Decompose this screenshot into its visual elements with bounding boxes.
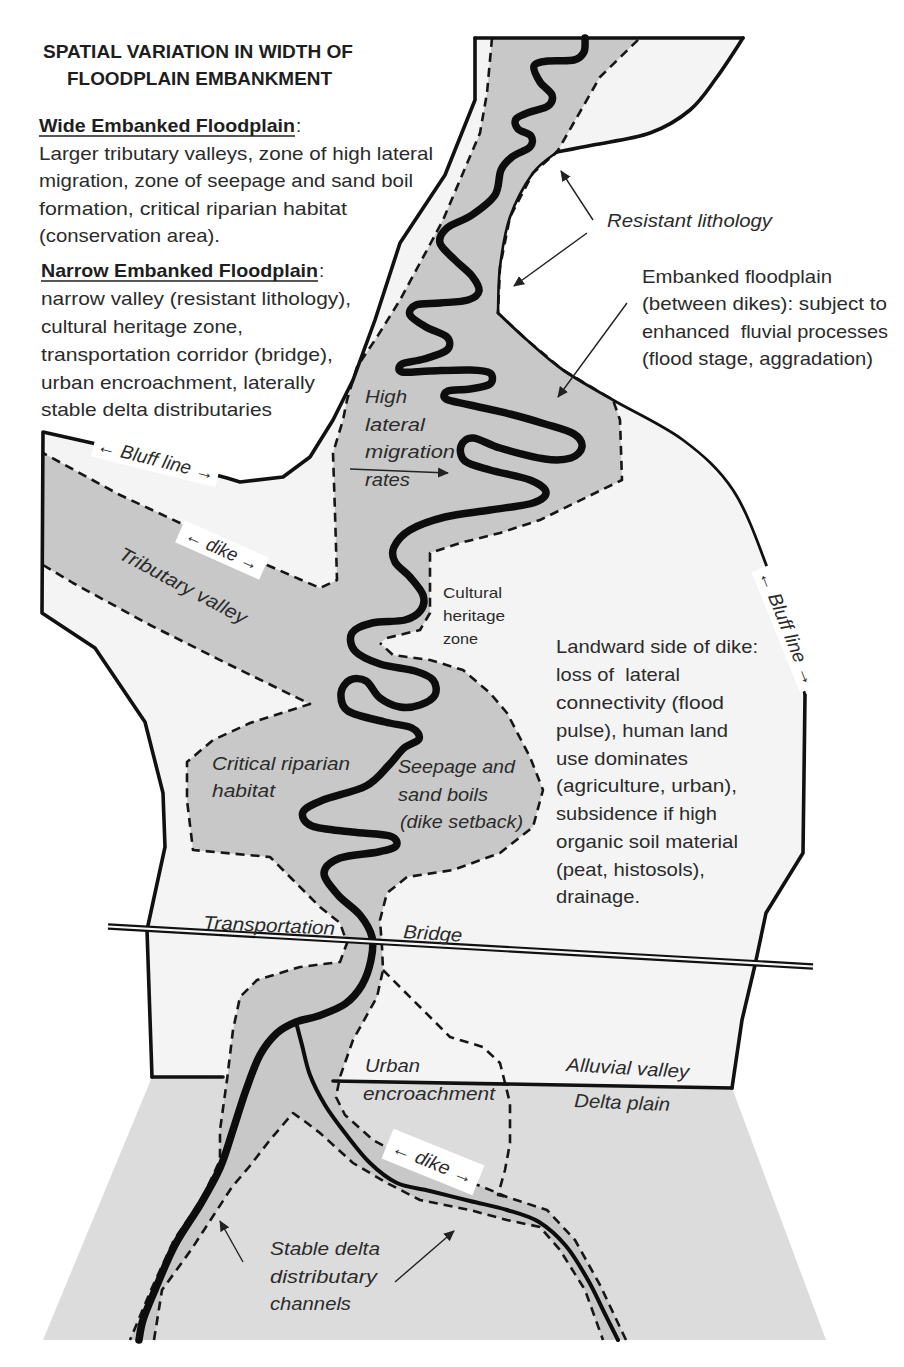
narrow-floodplain-line: cultural heritage zone, [41,316,243,337]
seepage-label: (dike setback) [400,811,523,832]
cultural-heritage-label: heritage [443,607,505,624]
stable-delta-label: Stable delta [270,1239,380,1259]
landward-side-note: subsidence if high [556,803,717,824]
title-line-1: SPATIAL VARIATION IN WIDTH OF [43,41,353,62]
narrow-floodplain-line: narrow valley (resistant lithology), [41,288,351,309]
embanked-floodplain-note: enhanced fluvial processes [642,321,888,342]
landward-side-note: (agriculture, urban), [556,775,737,796]
embanked-floodplain-note: (between dikes): subject to [642,293,887,314]
landward-side-note: connectivity (flood [556,692,724,713]
landward-side-note: drainage. [556,886,640,907]
resistant-lithology-label: Resistant lithology [607,210,774,231]
bridge-label: Bridge [403,921,463,946]
narrow-floodplain-colon: : [319,260,324,281]
narrow-floodplain-line: urban encroachment, laterally [41,372,316,393]
urban-encroachment-label: Urban [365,1055,420,1076]
embanked-floodplain-note: Embanked floodplain [642,266,832,287]
wide-floodplain-line: (conservation area). [39,225,220,246]
high-lateral-migration-label: lateral [365,414,426,435]
wide-floodplain-line: formation, critical riparian habitat [39,198,348,219]
wide-floodplain-line: migration, zone of seepage and sand boil [39,170,413,191]
narrow-floodplain-line: transportation corridor (bridge), [41,344,333,365]
landward-side-note: loss of lateral [556,664,680,685]
stable-delta-label: distributary [270,1267,378,1287]
landward-side-note: use dominates [556,748,688,769]
narrow-floodplain-heading: Narrow Embanked Floodplain [41,260,318,281]
landward-side-note: Landward side of dike: [556,636,758,657]
seepage-label: sand boils [398,784,489,805]
high-lateral-migration-label: rates [365,469,411,490]
delta-plain-label: Delta plain [574,1090,671,1115]
title-line-2: FLOODPLAIN EMBANKMENT [67,68,332,89]
critical-riparian-label: habitat [212,780,276,801]
seepage-label: Seepage and [398,756,516,777]
critical-riparian-label: Critical riparian [212,753,350,774]
wide-floodplain-line: Larger tributary valleys, zone of high l… [39,143,433,164]
embanked-floodplain-note: (flood stage, aggradation) [642,348,873,369]
urban-encroachment-label: encroachment [363,1083,496,1104]
cultural-heritage-label: zone [443,630,478,647]
landward-side-note: organic soil material [556,831,738,852]
landward-side-note: (peat, histosols), [556,859,705,880]
narrow-floodplain-line: stable delta distributaries [41,399,272,420]
floodplain-diagram: SPATIAL VARIATION IN WIDTH OF FLOODPLAIN… [0,0,904,1367]
wide-floodplain-heading: Wide Embanked Floodplain [39,115,295,136]
stable-delta-label: channels [270,1294,351,1314]
high-lateral-migration-label: migration [365,441,455,462]
landward-side-note: pulse), human land [556,720,728,741]
high-lateral-migration-label: High [365,386,407,407]
cultural-heritage-label: Cultural [443,584,502,601]
wide-floodplain-colon: : [296,115,301,136]
delta-plain-area [43,1077,826,1340]
